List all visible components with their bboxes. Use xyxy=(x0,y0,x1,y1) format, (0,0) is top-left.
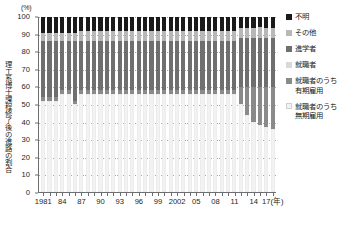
bar-segment xyxy=(200,41,204,90)
table-row xyxy=(200,17,204,192)
bar-segment xyxy=(86,41,90,90)
table-row xyxy=(137,17,141,192)
x-axis-tick-mark xyxy=(152,193,153,196)
bar-segment xyxy=(264,17,268,27)
bar-segment xyxy=(162,41,166,90)
bar-segment xyxy=(200,17,204,31)
bar-segment xyxy=(232,17,236,31)
bar-segment xyxy=(200,31,204,41)
x-axis-tick-mark xyxy=(171,193,172,196)
table-row xyxy=(98,17,102,192)
table-row xyxy=(175,17,179,192)
legend-item-label: 不明 xyxy=(295,12,309,22)
table-row xyxy=(130,17,134,192)
bar-segment xyxy=(60,41,64,90)
table-row xyxy=(194,17,198,192)
bar-segment xyxy=(73,17,77,33)
x-axis-tick-mark xyxy=(107,193,108,196)
bar-segment xyxy=(124,94,128,192)
bar-segment xyxy=(169,31,173,41)
bar-segment xyxy=(118,41,122,90)
bar-segment xyxy=(245,28,249,38)
y-axis-unit-label: (%) xyxy=(21,4,31,12)
bar-segment xyxy=(86,17,90,31)
table-row xyxy=(92,17,96,192)
bar-segment xyxy=(105,31,109,41)
bar-segment xyxy=(118,17,122,31)
bar-segment xyxy=(47,33,51,42)
x-axis-tick-mark xyxy=(132,193,133,196)
bar-segment xyxy=(156,31,160,41)
table-row xyxy=(149,17,153,192)
table-row xyxy=(220,17,224,192)
bar-segment xyxy=(137,17,141,31)
x-axis-tick-mark xyxy=(177,193,178,196)
bar-segment xyxy=(200,94,204,192)
bar-segment xyxy=(92,17,96,31)
bar-segment xyxy=(79,41,83,90)
bar-segment xyxy=(258,17,262,27)
x-axis-tick-mark xyxy=(139,193,140,196)
bar-segment xyxy=(188,17,192,31)
bar-segment xyxy=(245,115,249,192)
bar-segment xyxy=(245,87,249,115)
bar-segment xyxy=(67,33,71,42)
x-axis-tick-mark xyxy=(69,193,70,196)
x-axis-tick-mark xyxy=(62,193,63,196)
bar-segment xyxy=(239,104,243,192)
bar-segment xyxy=(98,94,102,192)
bar-segment xyxy=(213,41,217,90)
x-axis-tick-mark xyxy=(145,193,146,196)
bar-segment xyxy=(143,94,147,192)
legend-item[interactable]: 就職者のうち 有期雇用 xyxy=(286,76,364,95)
y-axis-tick: 40 xyxy=(22,119,30,127)
table-row xyxy=(162,17,166,192)
y-axis-tick: 0 xyxy=(26,189,30,197)
x-axis-tick-mark xyxy=(184,193,185,196)
bar-series-container xyxy=(40,17,276,192)
bar-segment xyxy=(213,17,217,31)
bar-segment xyxy=(194,31,198,41)
bar-segment xyxy=(169,41,173,90)
x-axis-tick: 96 xyxy=(135,197,143,206)
table-row xyxy=(111,17,115,192)
x-axis-tick-mark xyxy=(101,193,102,196)
x-axis-tick: 05 xyxy=(192,197,200,206)
legend-item[interactable]: 就職者 xyxy=(286,60,364,70)
bar-segment xyxy=(86,94,90,192)
legend-item[interactable]: 不明 xyxy=(286,12,364,22)
bar-segment xyxy=(226,17,230,31)
x-axis-tick-mark xyxy=(88,193,89,196)
bar-segment xyxy=(67,41,71,90)
x-axis-tick-mark xyxy=(120,193,121,196)
x-axis-tick: 14 xyxy=(249,197,257,206)
bar-segment xyxy=(98,17,102,31)
x-axis-tick: 08 xyxy=(211,197,219,206)
bar-segment xyxy=(251,87,255,122)
x-axis-tick-mark xyxy=(190,193,191,196)
table-row xyxy=(79,17,83,192)
legend-item[interactable]: その他 xyxy=(286,28,364,38)
x-axis-tick: 90 xyxy=(96,197,104,206)
bar-segment xyxy=(60,17,64,33)
legend-item[interactable]: 進学者 xyxy=(286,44,364,54)
bar-segment xyxy=(111,94,115,192)
bar-segment xyxy=(143,31,147,41)
bar-segment xyxy=(67,17,71,33)
bar-segment xyxy=(220,41,224,90)
x-axis-tick-mark xyxy=(158,193,159,196)
bar-segment xyxy=(41,101,45,192)
bar-segment xyxy=(111,41,115,90)
bar-segment xyxy=(130,31,134,41)
bar-segment xyxy=(220,31,224,41)
table-row xyxy=(60,17,64,192)
x-axis-tick: 99 xyxy=(154,197,162,206)
bar-segment xyxy=(54,41,58,97)
bar-segment xyxy=(92,31,96,41)
bar-segment xyxy=(175,17,179,31)
bar-segment xyxy=(60,33,64,42)
bar-segment xyxy=(245,17,249,27)
legend-item[interactable]: 就職者のうち 無期雇用 xyxy=(286,102,364,121)
bar-segment xyxy=(226,41,230,90)
x-axis-tick-mark xyxy=(56,193,57,196)
